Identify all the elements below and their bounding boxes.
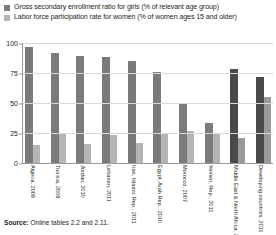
x-axis-label-text: Middle East & North Africa, 2011 [233,165,239,235]
legend-swatch-enrollment [4,5,10,11]
source-text: Online tables 2.2 and 2.11. [29,219,109,226]
gridline-50 [23,103,273,104]
x-axis-label-text: Morocco, 2007 [182,165,188,202]
x-axis-label: Algeria, 2009 [24,163,41,213]
x-axis-label-text: Algeria, 2009 [29,165,35,198]
legend-item-laborforce: Labor force participation rate for women… [4,13,276,21]
chart-legend: Gross secondary enrollment ratio for gir… [0,0,276,23]
x-axis-label-text: Jordan, 2010 [80,165,86,198]
x-axis-label: Developing countries, 2011 [253,163,270,213]
y-axis: 1007550250 [0,38,22,168]
bar-laborforce [238,138,245,163]
bar-laborforce [33,145,40,163]
x-axis-label: Yemen, Rep., 2011 [202,163,219,213]
bar-laborforce [110,135,117,163]
legend-swatch-laborforce [4,15,10,21]
bar-laborforce [136,143,143,163]
legend-label-laborforce: Labor force participation rate for women… [14,13,237,21]
x-axis-label: Lebanon, 2011 [100,163,117,213]
x-axis-label: Morocco, 2007 [177,163,194,213]
bar-laborforce [264,97,271,163]
bar-laborforce [84,144,91,163]
x-axis-label: Middle East & North Africa, 2011 [228,163,245,213]
bar-enrollment [25,47,33,163]
x-axis-label-text: Tunisia, 2009 [55,165,61,198]
bar-enrollment [51,53,59,163]
bar-enrollment [256,77,264,163]
source-note: Source: Online tables 2.2 and 2.11. [4,219,109,227]
legend-label-enrollment: Gross secondary enrollment ratio for gir… [14,3,219,11]
y-tick-25: 25 [10,130,18,137]
bar-enrollment [153,72,161,163]
y-tick-0: 0 [14,160,18,167]
y-tick-100: 100 [6,40,18,47]
chart-plot-area: 1007550250 [0,38,276,168]
plot-canvas [22,43,273,164]
x-axis-label-text: Developing countries, 2011 [258,165,264,232]
y-tick-50: 50 [10,100,18,107]
bar-enrollment [230,69,238,163]
x-axis-label: Iran, Islamic Rep., 2011 [126,163,143,213]
bar-laborforce [213,133,220,163]
bar-laborforce [59,133,66,163]
bar-enrollment [205,123,213,163]
gridline-100 [23,43,273,44]
x-axis-label-text: Iran, Islamic Rep., 2011 [131,165,137,224]
gridline-25 [23,133,273,134]
y-tick-75: 75 [10,70,18,77]
bar-enrollment [128,61,136,163]
bar-laborforce [187,131,194,163]
x-axis-label-text: Egypt, Arab Rep., 2010 [157,165,163,223]
x-axis-label-text: Lebanon, 2011 [106,165,112,202]
x-axis-label: Egypt, Arab Rep., 2010 [151,163,168,213]
gridline-75 [23,73,273,74]
legend-item-enrollment: Gross secondary enrollment ratio for gir… [4,3,276,11]
source-label: Source: [4,219,29,226]
x-axis-labels: Algeria, 2009Tunisia, 2009Jordan, 2010Le… [22,163,272,215]
x-axis-label-text: Yemen, Rep., 2011 [207,165,213,212]
x-axis-label: Tunisia, 2009 [49,163,66,213]
x-axis-label: Jordan, 2010 [75,163,92,213]
bar-laborforce [161,134,168,163]
